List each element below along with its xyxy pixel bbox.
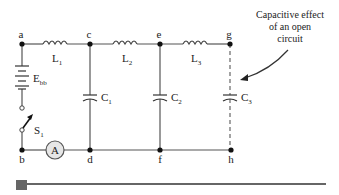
svg-text:Capacitive effect: Capacitive effect — [256, 9, 324, 20]
label-c3: C3 — [241, 91, 252, 106]
switch-s1-icon — [20, 106, 33, 132]
battery-icon — [15, 66, 29, 89]
progress-handle[interactable] — [16, 180, 27, 190]
node-label-c: c — [87, 28, 92, 40]
ammeter-label: A — [51, 144, 59, 156]
label-l3: L3 — [191, 52, 202, 67]
node-h — [228, 147, 233, 152]
node-c — [87, 41, 92, 46]
label-s1: S1 — [34, 124, 44, 139]
node-label-h: h — [228, 153, 234, 165]
node-label-f: f — [158, 153, 162, 165]
node-g — [227, 41, 232, 46]
node-d — [87, 147, 92, 152]
label-l2: L2 — [122, 52, 133, 67]
circuit-diagram: A a c e g b d f h L1 L2 L3 C1 C2 C3 Ebb … — [0, 0, 339, 195]
svg-text:circuit: circuit — [277, 33, 303, 44]
inductor-l3-icon — [183, 41, 207, 44]
node-label-d: d — [87, 153, 93, 165]
inductor-l2-icon — [113, 41, 137, 44]
ammeter-icon: A — [46, 141, 64, 159]
inductor-l1-icon — [43, 41, 67, 44]
node-e — [157, 41, 162, 46]
label-ebb: Ebb — [33, 72, 47, 87]
annotation-text: Capacitive effect of an open circuit — [256, 9, 324, 44]
node-b — [19, 147, 24, 152]
progress-bar[interactable] — [16, 180, 326, 190]
label-c1: C1 — [101, 91, 112, 106]
label-l1: L1 — [52, 52, 63, 67]
node-a — [19, 41, 24, 46]
node-label-g: g — [226, 28, 232, 40]
svg-text:of an open: of an open — [269, 21, 311, 32]
label-c2: C2 — [171, 91, 182, 106]
annotation-arrow-icon — [240, 50, 288, 81]
node-label-a: a — [19, 28, 24, 40]
node-label-b: b — [19, 153, 25, 165]
node-label-e: e — [157, 28, 162, 40]
node-f — [157, 147, 162, 152]
